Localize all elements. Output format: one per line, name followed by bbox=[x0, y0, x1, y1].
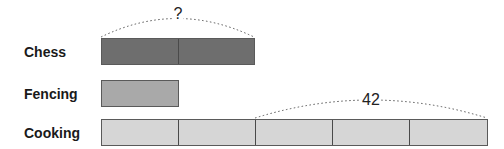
cooking-partial-total-label: 42 bbox=[361, 92, 381, 108]
row-label-chess: Chess bbox=[24, 44, 66, 60]
bar-unit bbox=[179, 120, 256, 145]
bar-unit bbox=[410, 120, 487, 145]
bar-unit bbox=[179, 39, 255, 64]
row-label-cooking: Cooking bbox=[24, 125, 80, 141]
row-label-fencing: Fencing bbox=[24, 86, 78, 102]
bar-cooking bbox=[101, 119, 488, 146]
bar-unit bbox=[102, 81, 178, 106]
chess-total-label: ? bbox=[173, 6, 184, 22]
tape-diagram: Chess ? Fencing Cooking 42 bbox=[0, 0, 504, 149]
bar-unit bbox=[333, 120, 410, 145]
bar-unit bbox=[256, 120, 333, 145]
bar-fencing bbox=[101, 80, 179, 107]
bar-unit bbox=[102, 120, 179, 145]
bar-chess bbox=[101, 38, 255, 65]
bar-unit bbox=[102, 39, 179, 64]
